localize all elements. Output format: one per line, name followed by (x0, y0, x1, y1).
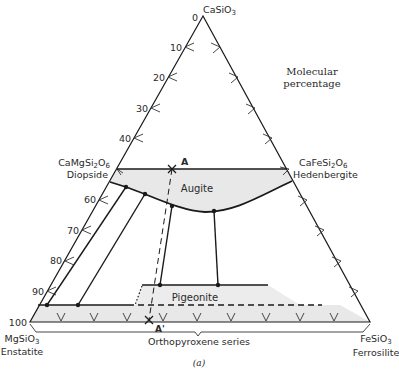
svg-text:80: 80 (50, 255, 62, 266)
svg-text:70: 70 (67, 225, 79, 236)
orthopyroxene-bracket (30, 324, 370, 336)
svg-text:20: 20 (153, 72, 165, 83)
top-vertex-label: CaSiO3 (203, 4, 236, 17)
hedenbergite-name: Hedenbergite (293, 169, 358, 180)
molecular-label-line2: percentage (283, 78, 340, 89)
figure-caption: (a) (193, 358, 206, 368)
svg-text:10: 10 (170, 42, 182, 53)
diopside-name: Diopside (67, 169, 108, 180)
svg-text:40: 40 (119, 133, 131, 144)
orthopyroxene-field (30, 305, 370, 322)
pyroxene-ternary-diagram: CaSiO3 0 10 20 30 40 60 70 80 90 100 Mol… (0, 0, 399, 383)
left-vertex-formula: MgSiO3 (5, 333, 40, 346)
point-a-label: A (181, 156, 189, 167)
svg-text:100: 100 (9, 317, 27, 328)
augite-label: Augite (181, 183, 213, 194)
molecular-label-line1: Molecular (286, 66, 338, 77)
pigeonite-label: Pigeonite (172, 292, 218, 303)
svg-text:60: 60 (84, 194, 96, 205)
svg-text:90: 90 (32, 286, 44, 297)
left-vertex-name: Enstatite (1, 346, 44, 357)
right-vertex-formula: FeSiO3 (360, 333, 391, 346)
right-vertex-name: Ferrosilite (353, 347, 399, 358)
svg-text:0: 0 (192, 12, 198, 23)
point-a-prime-label: A' (155, 324, 165, 334)
orthopyroxene-series-label: Orthopyroxene series (148, 336, 250, 347)
svg-text:30: 30 (136, 103, 148, 114)
